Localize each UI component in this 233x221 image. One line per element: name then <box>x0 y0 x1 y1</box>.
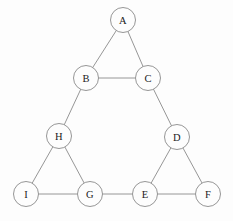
graph-node-label-d: D <box>173 132 181 143</box>
graph-node-e[interactable]: E <box>133 182 158 207</box>
graph-node-label-e: E <box>142 189 149 200</box>
graph-node-b[interactable]: B <box>74 66 99 91</box>
graph-node-label-c: C <box>144 73 151 84</box>
graph-edge-a-b <box>93 31 117 68</box>
node-layer: ABCHDIGEF <box>14 8 221 207</box>
graph-edge-d-f <box>183 148 202 183</box>
graph-node-label-i: I <box>24 189 28 200</box>
graph-edge-a-c <box>128 31 143 66</box>
graph-edge-h-i <box>32 147 53 183</box>
graph-edge-b-h <box>64 89 80 124</box>
graph-node-f[interactable]: F <box>196 182 221 207</box>
graph-canvas: ABCHDIGEF <box>0 0 233 221</box>
graph-node-h[interactable]: H <box>47 124 72 149</box>
graph-node-c[interactable]: C <box>136 66 161 91</box>
edge-layer <box>32 31 202 194</box>
graph-node-a[interactable]: A <box>111 8 136 33</box>
graph-edge-d-e <box>151 148 171 183</box>
graph-edge-h-g <box>65 147 84 183</box>
graph-node-g[interactable]: G <box>78 182 103 207</box>
graph-node-label-f: F <box>205 189 211 200</box>
graph-diagram-container: ABCHDIGEF <box>0 0 233 221</box>
graph-node-d[interactable]: D <box>165 125 190 150</box>
graph-node-label-g: G <box>86 189 94 200</box>
graph-edge-c-d <box>154 89 172 126</box>
graph-node-label-b: B <box>82 73 89 84</box>
graph-node-label-a: A <box>119 15 127 26</box>
graph-node-label-h: H <box>55 131 63 142</box>
graph-node-i[interactable]: I <box>14 182 39 207</box>
